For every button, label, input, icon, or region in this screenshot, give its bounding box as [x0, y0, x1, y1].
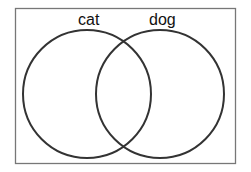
- venn-diagram: [0, 0, 251, 172]
- label-dog: dog: [149, 12, 176, 28]
- frame: [16, 9, 236, 164]
- label-cat: cat: [78, 12, 99, 28]
